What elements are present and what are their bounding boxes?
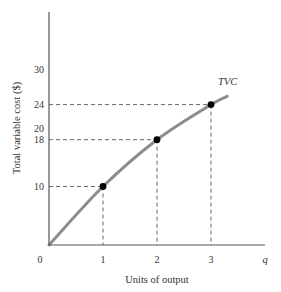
x-tick-labels: 123 bbox=[101, 254, 214, 265]
origin-label: 0 bbox=[38, 254, 43, 265]
y-tick-label: 18 bbox=[34, 134, 44, 145]
y-tick-label: 24 bbox=[34, 99, 44, 110]
x-axis-end-label: q bbox=[262, 254, 267, 265]
y-tick-label: 10 bbox=[34, 181, 44, 192]
x-tick-label: 3 bbox=[209, 254, 214, 265]
tvc-curve bbox=[49, 96, 227, 245]
x-tick-label: 2 bbox=[155, 254, 160, 265]
tvc-chart: 1018202430 123 0 q Units of output Total… bbox=[0, 0, 281, 292]
tvc-series-label: TVC bbox=[218, 76, 238, 87]
x-axis-title: Units of output bbox=[125, 274, 189, 285]
x-tick-label: 1 bbox=[101, 254, 106, 265]
y-tick-label: 20 bbox=[34, 123, 44, 134]
data-point bbox=[100, 183, 107, 190]
y-axis-title: Total variable cost ($) bbox=[11, 81, 23, 174]
data-point bbox=[154, 136, 161, 143]
y-tick-label: 30 bbox=[34, 64, 44, 75]
dashed-guides bbox=[49, 105, 211, 245]
y-tick-labels: 1018202430 bbox=[34, 64, 44, 192]
data-point bbox=[208, 101, 215, 108]
